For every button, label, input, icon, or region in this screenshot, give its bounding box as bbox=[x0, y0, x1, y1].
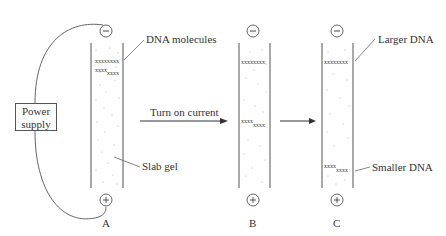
gel-c: xxxxxxxx xxxx xxxx bbox=[322, 25, 353, 206]
label-slab-gel: Slab gel bbox=[142, 160, 178, 172]
svg-text:xxxxxxxx: xxxxxxxx bbox=[241, 59, 265, 65]
wire-negative bbox=[35, 24, 103, 103]
svg-text:xxxx: xxxx bbox=[324, 163, 336, 169]
label-dna-molecules: DNA molecules bbox=[146, 33, 217, 45]
leader-slab-gel bbox=[114, 157, 140, 167]
leader-larger-dna bbox=[355, 39, 375, 61]
label-turn-on-current: Turn on current bbox=[150, 106, 219, 118]
leader-dna-molecules bbox=[124, 40, 144, 60]
panel-label-a: A bbox=[102, 217, 110, 229]
svg-text:xxxxxxxx: xxxxxxxx bbox=[95, 58, 119, 64]
gel-b: xxxxxxxx xxxx xxxx bbox=[239, 25, 270, 206]
gel-a: xxxxxxxx xxxx xxxx bbox=[91, 25, 123, 206]
svg-text:xxxx: xxxx bbox=[241, 118, 253, 124]
panel-label-c: C bbox=[333, 217, 340, 229]
svg-text:xxxx: xxxx bbox=[253, 122, 265, 128]
leader-smaller-dna bbox=[355, 167, 370, 171]
svg-text:xxxx: xxxx bbox=[107, 70, 119, 76]
power-supply-line2: supply bbox=[16, 118, 56, 131]
svg-text:xxxx: xxxx bbox=[95, 67, 107, 73]
svg-text:xxxx: xxxx bbox=[336, 167, 348, 173]
label-smaller-dna: Smaller DNA bbox=[372, 161, 433, 173]
power-supply-line1: Power bbox=[16, 105, 56, 118]
panel-label-b: B bbox=[249, 217, 256, 229]
svg-text:xxxxxxxx: xxxxxxxx bbox=[324, 59, 348, 65]
power-supply-box: Power supply bbox=[15, 103, 57, 131]
wire-positive bbox=[35, 131, 106, 219]
label-larger-dna: Larger DNA bbox=[378, 33, 434, 45]
